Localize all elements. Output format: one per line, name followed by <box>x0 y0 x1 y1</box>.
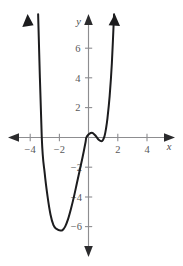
y-tick-label-plus6: 6 <box>75 43 80 54</box>
axis-lines <box>12 19 170 251</box>
axis-names: y x <box>75 16 171 152</box>
x-tick-label-plus2: 2 <box>115 144 120 155</box>
y-tick-label-minus6: −6 <box>71 221 82 232</box>
graph-figure: −4 −2 2 4 6 4 2 −2 −4 −6 y x <box>0 0 183 266</box>
y-axis-top-arrow-icon <box>84 14 93 25</box>
y-tick-label-plus2: 2 <box>75 102 80 113</box>
y-tick-label-plus4: 4 <box>75 73 81 84</box>
x-tick-label-minus2: −2 <box>54 144 65 155</box>
axis-arrowheads <box>8 14 175 257</box>
y-axis-bottom-arrow-icon <box>84 246 93 257</box>
curve-left-branch-arrow-icon <box>22 14 33 27</box>
x-axis-label: x <box>166 141 172 152</box>
x-tick-label-minus4: −4 <box>25 144 37 155</box>
y-axis-label: y <box>75 16 81 27</box>
curve-right-branch-arrow-icon <box>109 14 120 26</box>
x-axis-left-arrow-icon <box>8 133 19 142</box>
x-tick-label-plus4: 4 <box>144 144 150 155</box>
coordinate-plane-svg: −4 −2 2 4 6 4 2 −2 −4 −6 y x <box>0 0 183 266</box>
